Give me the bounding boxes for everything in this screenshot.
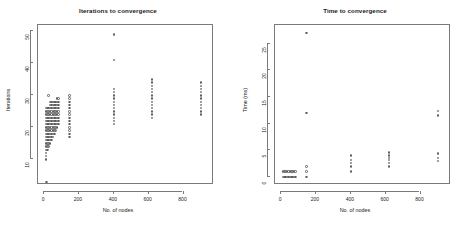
x-axis-tick-label: 200 [74, 196, 82, 202]
x-axis-tick-label: 600 [380, 196, 388, 202]
data-point [305, 176, 308, 179]
data-point [200, 113, 203, 116]
data-point [200, 85, 203, 88]
data-point [57, 123, 60, 126]
y-axis-tick [267, 69, 270, 70]
data-point [57, 97, 60, 100]
y-axis-tick [267, 96, 270, 97]
data-point [151, 78, 154, 81]
data-point [200, 94, 203, 97]
data-point [151, 117, 154, 120]
y-axis-tick-label: 20 [261, 69, 267, 83]
data-point [200, 91, 203, 94]
data-point [151, 113, 154, 116]
data-point [200, 110, 203, 113]
data-point [57, 117, 60, 120]
data-point [305, 112, 308, 115]
y-axis-tick-label: 10 [24, 158, 30, 172]
x-axis-tick-label: 800 [178, 196, 186, 202]
panel-time: Time to convergence 02004006008000510152… [237, 0, 473, 231]
y-axis-tick-label: 10 [261, 123, 267, 137]
data-point [113, 123, 116, 126]
data-point [305, 170, 308, 173]
data-point [388, 159, 391, 162]
data-point [113, 101, 116, 104]
y-axis-tick [30, 94, 33, 95]
y-axis-line [267, 43, 268, 176]
data-point [45, 181, 48, 184]
data-point [151, 94, 154, 97]
data-point [68, 113, 71, 116]
data-point [151, 101, 154, 104]
data-point [68, 136, 71, 139]
data-point [45, 152, 48, 155]
x-axis-tick-label: 0 [42, 196, 45, 202]
data-point [113, 110, 116, 113]
y-axis-tick [267, 43, 270, 44]
data-point [437, 110, 440, 113]
data-point [151, 88, 154, 91]
x-axis-tick [280, 191, 281, 194]
data-point [113, 113, 116, 116]
data-point [68, 133, 71, 136]
y-axis-tick-label: 50 [24, 30, 30, 44]
plot-title: Time to convergence [237, 7, 473, 14]
data-point [113, 107, 116, 110]
x-axis-tick [420, 191, 421, 194]
data-point [113, 104, 116, 107]
y-axis-tick [30, 30, 33, 31]
data-point [350, 154, 353, 157]
data-point [54, 129, 57, 132]
x-axis-tick [385, 191, 386, 194]
data-point [294, 170, 297, 173]
data-point [113, 33, 116, 36]
data-point [350, 165, 353, 168]
data-point [113, 117, 116, 120]
data-point [437, 114, 440, 117]
x-axis-tick [315, 191, 316, 194]
data-point [294, 176, 297, 179]
data-point [388, 154, 391, 157]
data-point [113, 120, 116, 123]
figure-canvas: Iterations to convergence 02004006008001… [0, 0, 473, 231]
y-axis-title: Iterations [5, 70, 11, 130]
data-point [68, 110, 71, 113]
x-axis-tick-label: 400 [346, 196, 354, 202]
data-point [113, 94, 116, 97]
y-axis-tick-label: 20 [24, 126, 30, 140]
x-axis-tick-label: 0 [279, 196, 282, 202]
x-axis-tick [43, 191, 44, 194]
data-point [57, 101, 60, 104]
data-point [68, 107, 71, 110]
data-point [437, 160, 440, 163]
data-point [200, 107, 203, 110]
x-axis-tick-label: 200 [311, 196, 319, 202]
y-axis-tick-label: 5 [261, 149, 267, 163]
data-point [50, 139, 53, 142]
y-axis-title: Time (ms) [242, 70, 248, 130]
data-point [68, 97, 71, 100]
y-axis-tick-label: 0 [261, 176, 267, 190]
data-point [57, 120, 60, 123]
data-point [57, 110, 60, 113]
data-point [388, 162, 391, 165]
data-point [350, 170, 353, 173]
data-point [47, 145, 50, 148]
data-point [437, 152, 440, 155]
x-axis-tick [78, 191, 79, 194]
data-point [57, 104, 60, 107]
data-point [200, 81, 203, 84]
data-point [151, 97, 154, 100]
y-axis-tick [267, 176, 270, 177]
data-point [46, 149, 49, 152]
data-point [305, 32, 308, 35]
data-point [350, 159, 353, 162]
y-axis-tick [30, 62, 33, 63]
x-axis-tick-label: 800 [415, 196, 423, 202]
data-point [388, 151, 391, 154]
y-axis-tick-label: 40 [24, 62, 30, 76]
plot-area-iterations [37, 24, 213, 184]
x-axis-tick-label: 400 [109, 196, 117, 202]
data-point [68, 129, 71, 132]
data-point [151, 110, 154, 113]
